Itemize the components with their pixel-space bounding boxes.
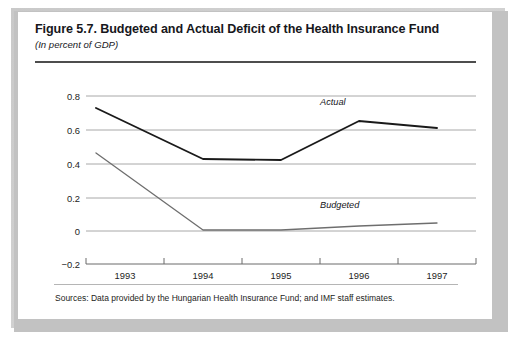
y-tick-label-1: 0.6	[46, 125, 80, 136]
source-note: Sources: Data provided by the Hungarian …	[55, 292, 475, 304]
gridlines	[86, 96, 476, 231]
series-budgeted-line	[96, 153, 437, 230]
x-axis	[86, 258, 476, 264]
y-tick-label-2: 0.4	[46, 159, 80, 170]
x-tick-label-1994: 1994	[193, 270, 214, 281]
y-tick-label-3: 0.2	[46, 193, 80, 204]
line-chart-svg	[18, 12, 492, 319]
figure-panel: Figure 5.7. Budgeted and Actual Deficit …	[18, 12, 492, 319]
series-label-budgeted: Budgeted	[320, 200, 359, 210]
series-actual-line	[96, 108, 437, 160]
x-tick-label-1997: 1997	[427, 270, 448, 281]
chart-plot-area: 0.8 0.6 0.4 0.2 0 −0.2 1993 1994 1995 19…	[18, 12, 492, 319]
source-divider	[54, 284, 458, 285]
x-tick-label-1993: 1993	[115, 270, 136, 281]
y-tick-label-4: 0	[46, 226, 80, 237]
y-tick-label-0: 0.8	[46, 91, 80, 102]
x-tick-label-1995: 1995	[271, 270, 292, 281]
y-tick-label-5: −0.2	[40, 259, 80, 270]
figure-screenshot: Figure 5.7. Budgeted and Actual Deficit …	[0, 0, 526, 343]
x-tick-label-1996: 1996	[349, 270, 370, 281]
series-label-actual: Actual	[320, 97, 346, 107]
